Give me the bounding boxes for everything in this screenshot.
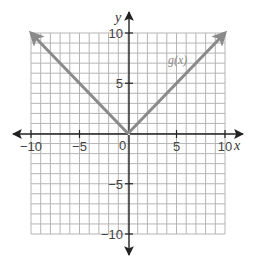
origin-label: 0 [119, 138, 126, 153]
y-tick-label: −10 [101, 227, 123, 242]
function-label-g-of-x: g(x) [168, 53, 187, 67]
coordinate-plane-chart: −10−5510−10−5510 x y 0 g(x) [0, 0, 253, 262]
y-tick-label: 10 [109, 26, 123, 41]
y-axis-label: y [113, 10, 122, 25]
x-tick-label: −5 [72, 139, 87, 154]
y-tick-label: 5 [116, 76, 123, 91]
x-tick-label: 10 [218, 139, 232, 154]
x-tick-label: −10 [20, 139, 42, 154]
y-tick-label: −5 [108, 177, 123, 192]
x-axis-label: x [233, 138, 241, 153]
x-tick-label: 5 [173, 139, 180, 154]
